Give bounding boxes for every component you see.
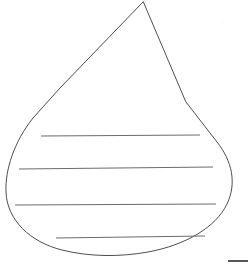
paper-speckle	[213, 40, 214, 41]
paper-speckle	[221, 21, 222, 22]
worksheet-page: Teardrop Writing Lines Template	[0, 0, 248, 271]
paper-speckle	[232, 51, 233, 52]
paper-speckle	[34, 27, 35, 28]
paper-speckle	[191, 40, 192, 41]
teardrop-artwork	[0, 0, 248, 271]
corner-rule-mark	[228, 260, 248, 262]
paper-speckle	[236, 25, 237, 26]
